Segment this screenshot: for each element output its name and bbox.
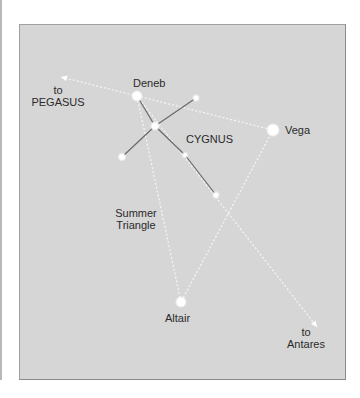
label-summer-triangle: Summer Triangle [104, 207, 168, 231]
label-deneb: Deneb [133, 77, 165, 89]
label-antares-name: Antares [281, 338, 331, 350]
star-altair [177, 298, 186, 307]
label-altair: Altair [165, 312, 190, 324]
star-wing-lower [119, 154, 125, 160]
stars [118, 90, 280, 307]
label-antares-to: to [281, 326, 331, 338]
cygnus-line-sadr-wing-lower [122, 126, 155, 157]
star-body-mid [183, 153, 187, 157]
star-wing-upper [194, 96, 199, 101]
cygnus-line-body-mid-body-tail [185, 155, 216, 195]
label-cygnus: CYGNUS [186, 133, 233, 145]
label-pegasus-name: PEGASUS [24, 96, 92, 108]
label-pegasus: to PEGASUS [24, 84, 92, 108]
star-sadr [152, 123, 159, 130]
pointer-arrows [61, 76, 317, 327]
label-summer: Summer [104, 207, 168, 219]
star-deneb [133, 92, 142, 101]
star-body-tail [214, 193, 219, 198]
label-pegasus-to: to [24, 84, 92, 96]
label-antares: to Antares [281, 326, 331, 350]
triangle-line-vega-altair [181, 130, 273, 302]
label-vega: Vega [285, 124, 310, 136]
cygnus-line-sadr-body-mid [155, 126, 185, 155]
cygnus-lines [122, 96, 216, 195]
star-vega [268, 125, 279, 136]
label-triangle: Triangle [104, 219, 168, 231]
arrowhead-icon [61, 76, 68, 82]
